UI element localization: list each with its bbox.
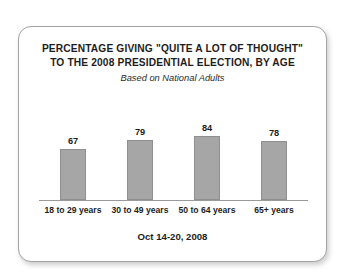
bar-value-label: 78 xyxy=(269,128,279,138)
bar-value-label: 67 xyxy=(68,136,78,146)
category-label: 50 to 64 years xyxy=(173,205,241,215)
category-label: 65+ years xyxy=(240,205,308,215)
bar xyxy=(127,140,153,200)
bar-value-label: 79 xyxy=(135,127,145,137)
chart-subtitle: Based on National Adults xyxy=(19,71,326,86)
category-label: 30 to 49 years xyxy=(106,205,174,215)
bar-value-label: 84 xyxy=(202,123,212,133)
x-axis-line xyxy=(39,200,308,202)
category-label: 18 to 29 years xyxy=(39,205,107,215)
bar-group: 79 xyxy=(106,104,174,200)
category-axis: 18 to 29 years 30 to 49 years 50 to 64 y… xyxy=(39,205,308,221)
chart-card: PERCENTAGE GIVING "QUITE A LOT OF THOUGH… xyxy=(18,26,327,262)
bar-group: 67 xyxy=(39,104,107,200)
bar xyxy=(261,141,287,200)
plot-area: 67 79 84 78 xyxy=(39,105,308,201)
chart-footer-date: Oct 14-20, 2008 xyxy=(19,231,326,242)
bar-group: 84 xyxy=(173,104,241,200)
bar-group: 78 xyxy=(240,104,308,200)
chart-title-line-2: TO THE 2008 PRESIDENTIAL ELECTION, BY AG… xyxy=(19,56,326,70)
bar xyxy=(194,136,220,200)
chart-title-line-1: PERCENTAGE GIVING "QUITE A LOT OF THOUGH… xyxy=(19,42,326,56)
chart-title-block: PERCENTAGE GIVING "QUITE A LOT OF THOUGH… xyxy=(19,42,326,86)
bar xyxy=(60,149,86,200)
